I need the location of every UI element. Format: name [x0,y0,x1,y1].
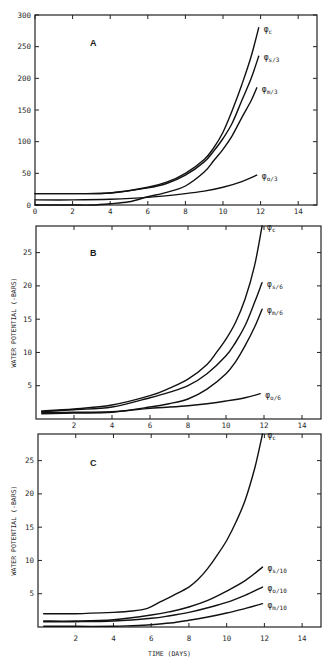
x-tick-label: 6 [149,634,154,643]
panel-a: 02468101214050100150200250300Aφcφs/3φm/3… [17,11,317,217]
x-tick-label: 12 [256,207,265,216]
y-tick-label: 20 [25,489,35,498]
series-label: φo/3 [262,172,278,182]
panel-letter: B [90,248,97,258]
panel-b: 2468101214510152025BWATER POTENTIAL (-BA… [10,223,321,430]
x-tick-label: 8 [186,421,191,430]
series-label: φs/10 [268,564,288,574]
series-line-c [44,434,263,614]
y-tick-label: 15 [23,315,32,324]
x-tick-label: 4 [111,634,116,643]
figure: 02468101214050100150200250300Aφcφs/3φm/3… [0,0,330,663]
y-tick-label: 150 [17,106,31,115]
y-tick-label: 200 [17,74,31,83]
series-line-o-10 [44,587,263,622]
panel-letter: A [90,38,97,48]
series-label: φs/6 [267,280,283,290]
x-tick-label: 4 [110,421,115,430]
x-tick-label: 6 [148,421,153,430]
series-label: φc [267,223,276,233]
y-tick-label: 0 [26,201,31,210]
y-tick-label: 5 [27,381,32,390]
series-line-c [42,226,262,411]
y-tick-label: 15 [25,523,34,532]
series-label: φc [268,431,277,441]
series-label: φm/6 [267,306,283,316]
x-tick-label: 10 [218,207,228,216]
x-tick-label: 4 [108,207,113,216]
x-tick-label: 8 [183,207,188,216]
plot-frame [38,434,321,627]
y-tick-label: 50 [22,169,32,178]
x-axis-title: TIME (DAYS) [148,650,191,658]
x-tick-label: 6 [146,207,151,216]
x-tick-label: 14 [298,634,308,643]
series-label: φm/10 [268,601,288,611]
y-tick-label: 250 [17,42,31,51]
panel-c: 2468101214510152025CWATER POTENTIAL (-BA… [10,431,321,658]
series-line-s-6 [42,283,262,412]
y-tick-label: 5 [29,589,34,598]
y-tick-label: 100 [17,137,31,146]
x-tick-label: 0 [33,207,38,216]
series-line-s-3 [35,56,259,193]
x-tick-label: 8 [187,634,192,643]
x-tick-label: 2 [72,421,77,430]
y-axis-title: WATER POTENTIAL (-BARS) [10,277,18,367]
series-line-m-6 [42,309,262,414]
series-label: φs/3 [264,53,280,63]
x-tick-label: 14 [294,207,304,216]
panel-letter: C [90,458,97,468]
series-label: φo/6 [265,391,281,401]
series-line-c [35,28,259,194]
y-tick-label: 25 [25,456,34,465]
y-tick-label: 10 [23,348,33,357]
y-tick-label: 10 [25,556,35,565]
x-tick-label: 10 [221,421,231,430]
x-tick-label: 12 [260,634,269,643]
series-label: φm/3 [262,85,278,95]
series-label: φc [264,25,273,35]
x-tick-label: 2 [70,207,75,216]
x-tick-label: 14 [297,421,307,430]
y-tick-label: 25 [23,248,32,257]
y-tick-label: 300 [17,11,31,20]
x-tick-label: 12 [259,421,268,430]
y-tick-label: 20 [23,281,33,290]
series-label: φo/10 [268,584,288,594]
x-tick-label: 10 [222,634,232,643]
x-tick-label: 2 [73,634,78,643]
y-axis-title: WATER POTENTIAL (-BARS) [10,485,18,575]
